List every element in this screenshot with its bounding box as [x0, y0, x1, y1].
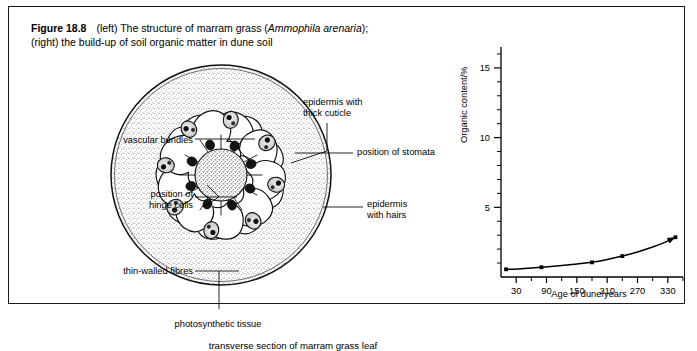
figure-number: Figure 18.8 [31, 22, 86, 34]
label-position-of-stomata: position of stomata [357, 147, 463, 158]
label-photosynthetic-tissue: photosynthetic tissue [163, 319, 273, 330]
chart-x-axis-title: Age of dune/years [499, 289, 679, 299]
caption-species-name: Ammophila arenaria [268, 22, 362, 34]
leaf-diagram-subcaption: transverse section of marram grass leaf [183, 340, 403, 351]
leaf-cross-section-panel: vascular bundles position of hinge cells… [23, 47, 443, 309]
organic-content-line-chart: 510153090150210270330 [461, 39, 689, 309]
chart-data-point [620, 254, 624, 258]
figure-border: Figure 18.8(left) The structure of marra… [8, 6, 685, 304]
label-thin-walled-fibres: thin-walled fibres [97, 266, 193, 277]
label-vascular-bundles: vascular bundles [107, 135, 193, 146]
marram-leaf-diagram [23, 47, 443, 309]
chart-data-point [590, 260, 594, 264]
chart-y-tick-label: 15 [480, 63, 490, 73]
caption-part-b: ); [362, 22, 368, 34]
chart-y-tick-label: 10 [480, 133, 490, 143]
chart-data-point [674, 235, 678, 239]
chart-data-curve [506, 237, 675, 269]
label-epidermis-thick-cuticle: epidermis with thick cuticle [303, 97, 399, 119]
organic-content-chart-panel: 510153090150210270330 Organic content/% … [461, 39, 689, 309]
label-epidermis-with-hairs: epidermis with hairs [367, 199, 447, 221]
chart-data-point [540, 265, 544, 269]
figure-caption: Figure 18.8(left) The structure of marra… [31, 21, 461, 49]
label-hinge-cells: position of hinge cells [107, 189, 193, 211]
caption-part-a: (left) The structure of marram grass ( [96, 22, 267, 34]
chart-y-axis-title: Organic content/% [459, 67, 469, 143]
chart-data-point [504, 267, 508, 271]
chart-y-tick-label: 5 [485, 203, 490, 213]
